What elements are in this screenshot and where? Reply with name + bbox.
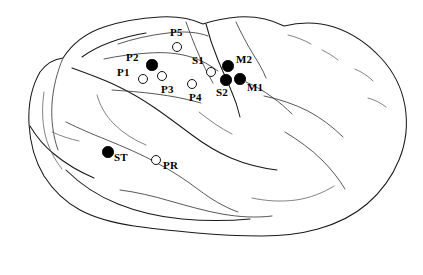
angular-gyrus-arc — [97, 95, 146, 145]
site-marker-p4[interactable] — [187, 79, 197, 89]
site-label-p5: P5 — [170, 27, 183, 38]
site-label-s2: S2 — [216, 87, 228, 98]
site-marker-m1[interactable] — [234, 73, 246, 85]
inferior-frontal-sulcus — [264, 96, 343, 137]
site-label-st: ST — [114, 152, 128, 163]
frontal-detail-stroke-d — [288, 35, 311, 44]
cerebrum-outline — [29, 17, 407, 236]
frontal-detail-stroke-b — [355, 69, 373, 81]
temporal-pole-outline — [30, 126, 94, 178]
opercular-inner-fold — [199, 112, 232, 134]
site-marker-s2[interactable] — [220, 74, 232, 86]
site-label-m1: M1 — [247, 82, 263, 93]
site-marker-s1[interactable] — [206, 67, 216, 77]
site-marker-p2[interactable] — [146, 59, 157, 70]
site-marker-pr[interactable] — [151, 155, 161, 165]
site-label-pr: PR — [163, 160, 178, 171]
occipital-arc-upper — [52, 58, 63, 150]
site-label-m2: M2 — [236, 54, 252, 65]
site-label-p4: P4 — [189, 92, 202, 103]
site-marker-st[interactable] — [102, 146, 114, 158]
site-marker-p1[interactable] — [138, 74, 148, 84]
superior-temporal-sulcus — [66, 122, 238, 212]
brain-outline-drawing — [0, 0, 423, 275]
site-label-p3: P3 — [161, 84, 174, 95]
superior-frontal-sulcus — [118, 32, 208, 44]
brain-map-figure: P5P2P1P3P4S1M2S2M1STPR — [0, 0, 423, 275]
site-label-s1: S1 — [192, 55, 204, 66]
site-marker-p3[interactable] — [157, 71, 167, 81]
inferior-temporal-sulcus — [120, 190, 272, 217]
site-label-p1: P1 — [117, 67, 130, 78]
inferior-frontal-rim-fold — [252, 186, 334, 201]
site-marker-m2[interactable] — [222, 60, 234, 72]
frontal-detail-stroke-c — [368, 98, 386, 107]
orbital-sulcus — [285, 132, 345, 189]
supramarginal-arc — [112, 90, 201, 103]
postcentral-sulcus — [236, 22, 266, 78]
site-marker-p5[interactable] — [172, 42, 182, 52]
site-label-p2: P2 — [126, 52, 139, 63]
frontal-detail-stroke-a — [322, 50, 338, 60]
occipital-notch — [52, 132, 79, 141]
